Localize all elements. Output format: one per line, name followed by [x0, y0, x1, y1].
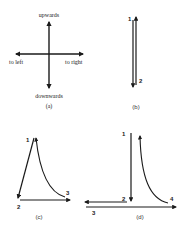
label-to-right: to right [65, 59, 83, 65]
caption-a: (a) [46, 103, 53, 110]
caption-c: (c) [36, 214, 43, 220]
point-c-1: 1 [26, 137, 30, 143]
point-d-1: 1 [122, 131, 126, 137]
point-d-3: 3 [92, 210, 96, 216]
panel-b-vertical-cycle: 1 2 (b) [128, 16, 143, 110]
point-b-1: 1 [128, 16, 132, 22]
caption-d: (d) [136, 214, 143, 220]
panel-d-cycle: 1 2 3 4 (d) [85, 131, 176, 220]
panel-c-cycle: 1 2 3 (c) [17, 137, 70, 220]
label-upwards: upwards [39, 12, 60, 18]
point-d-4: 4 [170, 196, 174, 202]
point-d-2: 2 [122, 196, 126, 202]
point-c-2: 2 [17, 204, 21, 210]
label-downwards: downwards [35, 93, 63, 99]
curve-c-3-1 [36, 138, 65, 197]
label-to-left: to left [9, 59, 23, 65]
point-b-2: 2 [139, 78, 143, 84]
arrow-c-1-2 [18, 138, 34, 198]
diagram-canvas: upwards downwards to left to right (a) 1… [0, 0, 189, 233]
caption-b: (b) [132, 104, 139, 110]
curve-d-4-up [140, 136, 168, 203]
panel-a-directions: upwards downwards to left to right (a) [9, 12, 83, 110]
point-c-3: 3 [66, 190, 70, 196]
